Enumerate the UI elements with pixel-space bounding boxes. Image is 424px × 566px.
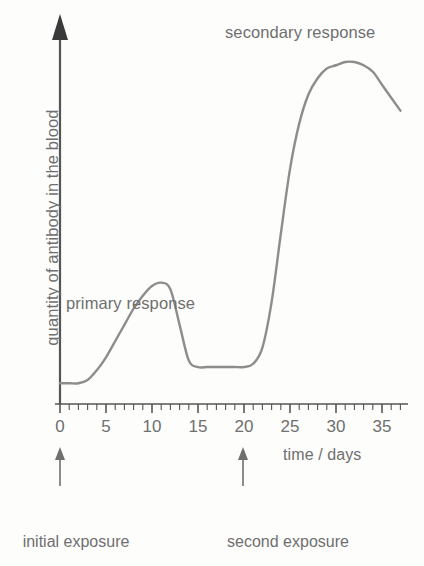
x-axis-tick-label: 5 [91, 417, 121, 437]
x-axis-tick-label: 25 [275, 417, 305, 437]
x-axis-tick-label: 15 [183, 417, 213, 437]
initial-exposure-note-line1: initial exposure [0, 531, 152, 553]
initial-exposure-note: initial exposure to the antigen (day 0) [0, 487, 152, 566]
chart-canvas [0, 0, 424, 566]
y-axis-arrowhead [52, 14, 68, 40]
initial-exposure-arrow [55, 447, 65, 486]
primary-response-label: primary response [66, 294, 195, 313]
antibody-response-chart: quantity of antibody in the blood second… [0, 0, 424, 566]
second-exposure-arrow [238, 447, 248, 486]
y-axis-label: quantity of antibody in the blood [43, 78, 62, 378]
x-axis-label: time / days [283, 446, 361, 464]
antibody-response-curve [60, 62, 400, 384]
x-axis-tick-label: 0 [45, 417, 75, 437]
x-axis-tick-label: 35 [367, 417, 397, 437]
x-axis-tick-label: 20 [229, 417, 259, 437]
secondary-response-label: secondary response [225, 23, 375, 42]
x-axis-tick-label: 30 [321, 417, 351, 437]
second-exposure-note-line1: second exposure [152, 531, 424, 553]
x-axis-tick-label: 10 [137, 417, 167, 437]
x-axis-ticks [60, 404, 400, 413]
second-exposure-note: second exposure to the antigen (day 20) … [152, 487, 424, 566]
